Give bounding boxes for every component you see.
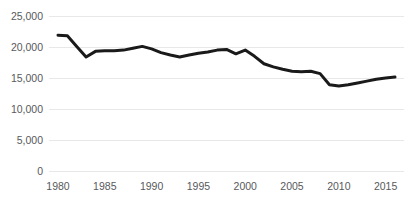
y-axis-tick-label: 10,000 bbox=[0, 104, 43, 115]
x-axis-tick-label: 1980 bbox=[46, 181, 69, 192]
y-axis-tick-label: 0 bbox=[0, 166, 43, 177]
x-axis-tick-label: 1990 bbox=[140, 181, 163, 192]
x-axis-tick-label: 2015 bbox=[374, 181, 397, 192]
y-axis-tick-label: 20,000 bbox=[0, 42, 43, 53]
line-chart: 05,00010,00015,00020,00025,000 198019851… bbox=[0, 0, 413, 206]
y-axis-tick-label: 25,000 bbox=[0, 11, 43, 22]
chart-plot-area bbox=[0, 0, 413, 206]
x-axis-tick-label: 1985 bbox=[93, 181, 116, 192]
x-axis-tick-label: 2005 bbox=[280, 181, 303, 192]
x-axis-tick-label: 1995 bbox=[187, 181, 210, 192]
x-axis-tick-label: 2010 bbox=[327, 181, 350, 192]
gridlines bbox=[49, 16, 404, 171]
y-axis-tick-label: 15,000 bbox=[0, 73, 43, 84]
y-axis-tick-label: 5,000 bbox=[0, 135, 43, 146]
x-axis-tick-label: 2000 bbox=[234, 181, 257, 192]
